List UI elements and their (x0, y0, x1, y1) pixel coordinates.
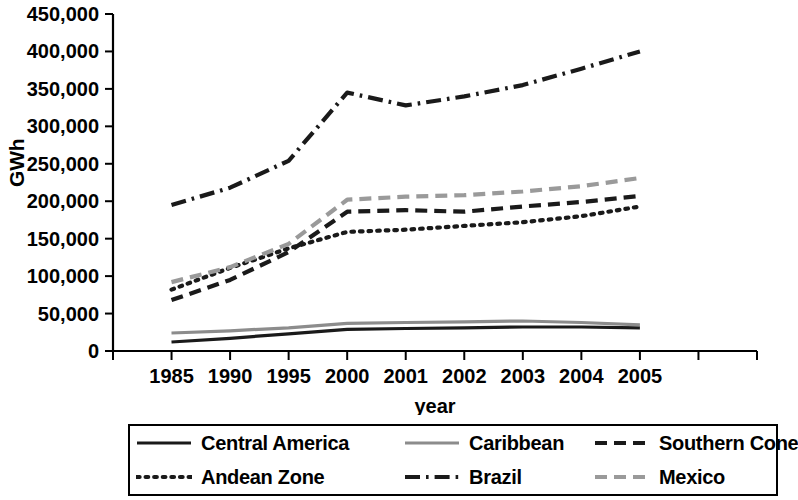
legend-swatch-caribbean (404, 436, 460, 450)
series-line-southern-cone (172, 196, 640, 300)
legend-item-southern-cone: Southern Cone (594, 432, 786, 455)
legend-swatch-brazil (404, 470, 460, 484)
chart-legend: Central AmericaCaribbeanSouthern ConeAnd… (128, 424, 778, 496)
x-tick-label: 2003 (501, 365, 546, 387)
y-tick-label: 100,000 (27, 265, 99, 287)
legend-grid: Central AmericaCaribbeanSouthern ConeAnd… (130, 426, 776, 494)
plot-area: 450,000400,000350,000300,000250,000200,0… (0, 0, 782, 415)
x-tick-label: 2005 (618, 365, 663, 387)
x-tick-label: 2004 (559, 365, 604, 387)
x-tick-label: 2001 (383, 365, 428, 387)
legend-label-central-america: Central America (201, 432, 349, 455)
series-line-brazil (172, 51, 640, 205)
series-line-andean-zone (172, 207, 640, 290)
x-tick-label: 1995 (266, 365, 311, 387)
y-tick-label: 250,000 (27, 153, 99, 175)
y-tick-label: 300,000 (27, 115, 99, 137)
legend-swatch-southern-cone (594, 436, 650, 450)
y-tick-label: 450,000 (27, 3, 99, 25)
legend-swatch-mexico (594, 470, 650, 484)
y-tick-label: 150,000 (27, 228, 99, 250)
x-axis-title: year (414, 395, 455, 415)
x-tick-label: 1990 (208, 365, 253, 387)
y-axis-tick-labels: 450,000400,000350,000300,000250,000200,0… (27, 3, 99, 362)
data-series-group (172, 51, 640, 342)
legend-item-brazil: Brazil (404, 466, 594, 489)
y-axis-title: GWh (5, 157, 29, 187)
x-axis-tick-labels: 198519901995200020012002200320042005 (149, 365, 662, 387)
legend-label-mexico: Mexico (659, 466, 725, 489)
legend-label-southern-cone: Southern Cone (659, 432, 798, 455)
legend-item-andean-zone: Andean Zone (136, 466, 404, 489)
legend-label-andean-zone: Andean Zone (201, 466, 324, 489)
legend-label-brazil: Brazil (469, 466, 522, 489)
legend-swatch-andean-zone (136, 470, 192, 484)
y-tick-label: 0 (88, 340, 99, 362)
legend-label-caribbean: Caribbean (469, 432, 564, 455)
line-chart-svg: 450,000400,000350,000300,000250,000200,0… (0, 0, 782, 415)
y-tick-label: 50,000 (38, 303, 99, 325)
legend-item-mexico: Mexico (594, 466, 786, 489)
x-axis-tick-marks (113, 351, 757, 360)
y-tick-label: 350,000 (27, 78, 99, 100)
x-tick-label: 2000 (325, 365, 370, 387)
x-tick-label: 1985 (149, 365, 194, 387)
legend-item-caribbean: Caribbean (404, 432, 594, 455)
legend-swatch-central-america (136, 436, 192, 450)
legend-item-central-america: Central America (136, 432, 404, 455)
y-tick-label: 400,000 (27, 40, 99, 62)
y-axis-tick-marks (105, 14, 113, 351)
y-tick-label: 200,000 (27, 190, 99, 212)
x-tick-label: 2002 (442, 365, 487, 387)
